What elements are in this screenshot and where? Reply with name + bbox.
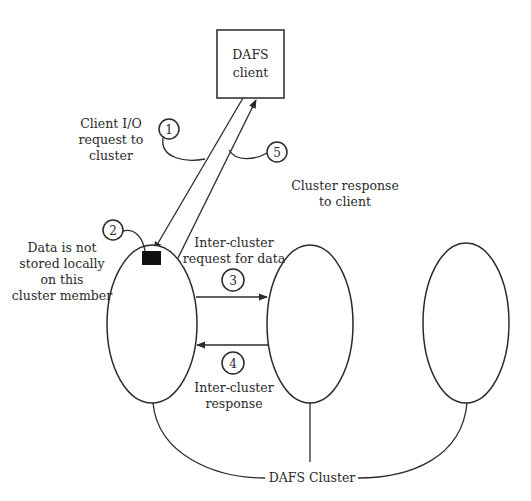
step-5-label-line2: to client bbox=[319, 194, 371, 209]
step-1-connector bbox=[163, 138, 205, 160]
step-2-label-line4: cluster member bbox=[12, 288, 112, 303]
step-1-label-line3: cluster bbox=[89, 148, 133, 163]
step-2-label-line3: on this bbox=[40, 272, 83, 287]
step-1-label-line2: request to bbox=[79, 132, 144, 147]
cluster-member-1-node bbox=[107, 245, 197, 403]
client-label-line1: DAFS bbox=[232, 47, 268, 62]
step-5-number: 5 bbox=[273, 146, 281, 160]
client-label-line2: client bbox=[233, 65, 268, 80]
step-4-number: 4 bbox=[229, 357, 237, 371]
step-5: 5 Cluster response to client bbox=[229, 142, 399, 209]
cluster-label: DAFS Cluster bbox=[269, 470, 356, 485]
data-block-icon bbox=[142, 251, 161, 265]
step-1-label-line1: Client I/O bbox=[80, 116, 141, 131]
step-2-number: 2 bbox=[109, 224, 117, 238]
step-4: 4 Inter-cluster response bbox=[194, 345, 273, 411]
step-3-number: 3 bbox=[229, 274, 237, 288]
cluster-bracket-right bbox=[358, 403, 467, 478]
step-5-label-line1: Cluster response bbox=[291, 178, 399, 193]
cluster-member-3-node bbox=[423, 243, 509, 403]
dafs-client-box: DAFS client bbox=[217, 30, 284, 98]
cluster-bracket-left bbox=[153, 403, 265, 478]
step-4-label-line1: Inter-cluster bbox=[194, 380, 273, 395]
step-2-label-line2: stored locally bbox=[19, 256, 105, 271]
step-3: Inter-cluster request for data 3 bbox=[183, 235, 286, 297]
step-5-connector bbox=[229, 150, 267, 159]
step-1: 1 Client I/O request to cluster bbox=[79, 116, 205, 163]
dafs-cluster-diagram: DAFS client 1 Client I/O request to clus… bbox=[0, 0, 531, 501]
step-1-number: 1 bbox=[165, 123, 173, 137]
step-3-label-line2: request for data bbox=[183, 251, 286, 266]
step-4-label-line2: response bbox=[205, 396, 262, 411]
step-2-label-line1: Data is not bbox=[28, 240, 97, 255]
cluster-bracket: DAFS Cluster bbox=[153, 403, 467, 485]
step-3-label-line1: Inter-cluster bbox=[194, 235, 273, 250]
cluster-member-2-node bbox=[267, 245, 353, 403]
